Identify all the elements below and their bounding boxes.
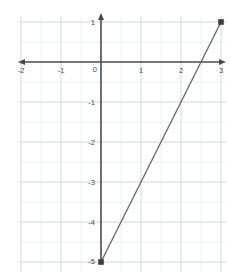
x-tick-label--2: -2 <box>18 66 25 75</box>
y-tick-label--2: -2 <box>88 138 95 147</box>
y-tick-label--3: -3 <box>88 178 95 187</box>
graph-canvas: -2 -1 1 2 3 1 0 -1 -2 -3 -4 -5 <box>0 0 231 276</box>
coordinate-graph: -2 -1 1 2 3 1 0 -1 -2 -3 -4 -5 <box>0 0 231 276</box>
graph-background <box>0 0 231 276</box>
endpoint-marker-origin <box>98 259 104 265</box>
y-tick-label--4: -4 <box>88 218 95 227</box>
endpoint-marker-top <box>218 19 224 25</box>
x-tick-label-1: 1 <box>139 66 143 75</box>
y-tick-label-1: 1 <box>91 18 95 27</box>
x-tick-label-2: 2 <box>179 66 183 75</box>
x-tick-label--1: -1 <box>58 66 65 75</box>
y-tick-label--1: -1 <box>88 98 95 107</box>
x-tick-label-3: 3 <box>219 66 223 75</box>
y-tick-label-0: 0 <box>93 65 97 74</box>
y-tick-label--5: -5 <box>88 257 95 266</box>
